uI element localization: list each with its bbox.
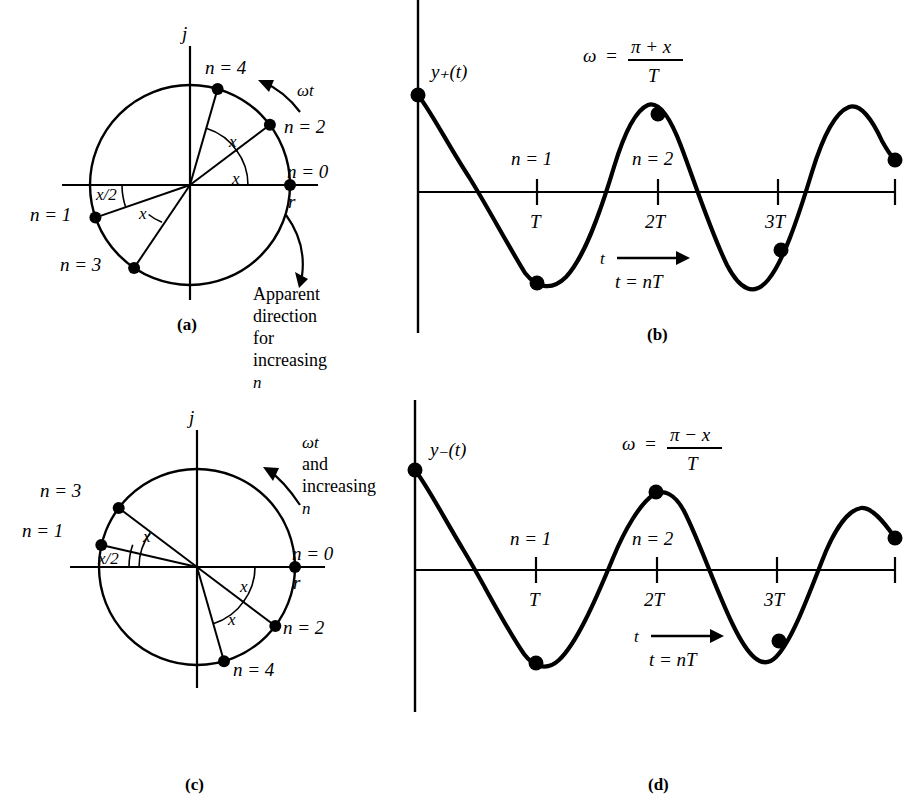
panel-a-angle-label-x-lower: x: [231, 169, 240, 188]
panel-a-axis-label-real: r: [288, 191, 296, 212]
panel-d-time-arrowhead: [710, 629, 724, 643]
panel-c-omega-t-arrowhead: [263, 467, 279, 481]
panel-b-formula-omega: ω: [583, 45, 596, 66]
panel-b-sample-label-n2: n = 2: [632, 148, 674, 169]
panel-c-axis-label-imaginary: j: [186, 407, 194, 428]
panel-a-apparent-direction-arrow: [286, 215, 303, 276]
panel-c-angle-label-x-lower2: x: [227, 610, 236, 629]
panel-b-formula-denominator: T: [648, 65, 660, 86]
figure-canvas: j r n = 4 n = 2 n = 0 n = 1 n = 3 x x x/…: [0, 0, 907, 808]
panel-a-point-n3: [128, 262, 140, 274]
panel-d-sample-n2: [649, 485, 664, 500]
panel-c-angle-label-x-lower: x: [239, 577, 248, 596]
panel-a-axis-label-imaginary: j: [179, 23, 187, 44]
panel-c-point-n4: [218, 655, 230, 667]
panel-d-sample-n4: [888, 531, 903, 546]
panel-b-sample-n1: [530, 276, 545, 291]
panel-a-point-label-n4: n = 4: [205, 57, 247, 78]
panel-c-phasor-n4: [197, 567, 224, 661]
panel-d-sample-label-n2: n = 2: [632, 528, 674, 549]
panel-c-caption: (c): [185, 775, 204, 794]
panel-d-caption: (d): [648, 775, 669, 794]
panel-a-arc-x-lowerleft: [149, 215, 162, 223]
panel-c-point-n2: [269, 620, 281, 632]
panel-a-angle-label-x-upper: x: [228, 132, 237, 151]
panel-d-sampling-label: t = nT: [649, 649, 698, 670]
panel-c-axis-label-real: r: [293, 572, 301, 593]
panel-b-sample-n2: [651, 107, 666, 122]
panel-d-formula-denominator: T: [687, 453, 699, 474]
panel-c-angle-label-x-upper: x: [142, 527, 151, 546]
panel-c-arc-x-half: [129, 545, 133, 567]
panel-a-note-line-5: n: [253, 373, 262, 392]
panel-c-note-line-4: n: [302, 499, 311, 518]
panel-a-note-line-3: for: [253, 328, 274, 348]
panel-a-point-label-n2: n = 2: [284, 116, 326, 137]
panel-d-sample-n1: [529, 656, 544, 671]
panel-a-angle-label-x-half: x/2: [95, 185, 117, 204]
panel-c-point-label-n2: n = 2: [283, 617, 325, 638]
panel-d-tick-label-T: T: [529, 589, 541, 610]
panel-b-formula-equals: =: [605, 45, 618, 66]
panel-c-point-label-n0: n = 0: [292, 543, 334, 564]
panel-a: j r n = 4 n = 2 n = 0 n = 1 n = 3 x x x/…: [30, 23, 329, 392]
panel-a-point-n2: [264, 119, 276, 131]
figure-root: j r n = 4 n = 2 n = 0 n = 1 n = 3 x x x/…: [0, 0, 907, 808]
panel-a-phasor-n4: [190, 89, 218, 185]
panel-c-note-line-2: and: [302, 454, 328, 474]
panel-d-tick-label-3T: 3T: [763, 589, 786, 610]
panel-c-note-line-3: increasing: [302, 476, 376, 496]
panel-b-tick-label-2T: 2T: [645, 211, 667, 232]
panel-a-point-n4: [212, 83, 224, 95]
panel-a-caption: (a): [177, 315, 197, 334]
panel-a-point-n1: [89, 212, 101, 224]
panel-a-phasor-n3: [134, 185, 190, 268]
panel-d-formula-numerator: π − x: [670, 424, 711, 445]
panel-d-sample-n0: [408, 463, 423, 478]
panel-d-tick-label-2T: 2T: [644, 589, 666, 610]
panel-c-point-label-n1: n = 1: [22, 520, 63, 541]
panel-b-sample-n3: [774, 243, 789, 258]
panel-b-time-arrowhead: [676, 251, 690, 265]
panel-d-sample-n3: [772, 634, 787, 649]
panel-c-point-n3: [113, 502, 125, 514]
panel-a-point-label-n0: n = 0: [287, 161, 329, 182]
panel-b: y₊(t) ω = π + x T n = 1 n = 2 T 2T 3T t …: [411, 0, 903, 344]
panel-b-time-arrow-label: t: [600, 249, 606, 268]
panel-d: y₋(t) ω = π − x T n = 1 n = 2 T 2T 3T t …: [408, 400, 903, 794]
panel-b-sample-n4: [888, 153, 903, 168]
panel-d-signal-label: y₋(t): [428, 439, 466, 461]
panel-a-point-label-n1: n = 1: [30, 204, 71, 225]
panel-c-note-line-1: ωt: [302, 433, 320, 452]
panel-b-sample-label-n1: n = 1: [511, 148, 552, 169]
panel-a-point-label-n3: n = 3: [60, 254, 101, 275]
panel-a-omega-t-label: ωt: [297, 81, 315, 100]
panel-b-sampling-label: t = nT: [615, 271, 664, 292]
panel-b-sample-n0: [411, 88, 426, 103]
panel-d-sample-label-n1: n = 1: [510, 528, 551, 549]
panel-d-formula-equals: =: [644, 433, 657, 454]
panel-c-point-label-n4: n = 4: [233, 659, 275, 680]
panel-d-formula-omega: ω: [622, 433, 635, 454]
panel-b-signal-label: y₊(t): [429, 61, 467, 83]
panel-b-tick-label-T: T: [530, 211, 542, 232]
panel-c-phasor-n2: [197, 567, 275, 626]
panel-b-tick-label-3T: 3T: [764, 211, 787, 232]
panel-a-arc-x-half: [122, 185, 126, 207]
panel-b-formula-numerator: π + x: [631, 36, 672, 57]
panel-a-angle-label-x-lowerleft: x: [138, 204, 147, 223]
panel-d-time-arrow-label: t: [634, 627, 640, 646]
panel-c-point-label-n3: n = 3: [40, 480, 81, 501]
panel-b-caption: (b): [647, 325, 668, 344]
panel-c: j r n = 3 n = 1 n = 0 n = 2 n = 4 x x/2 …: [22, 407, 376, 794]
panel-a-note-line-4: increasing: [253, 350, 327, 370]
panel-a-note-line-2: direction: [253, 306, 317, 326]
panel-c-angle-label-x-half: x/2: [97, 549, 119, 568]
panel-a-note-line-1: Apparent: [253, 284, 320, 304]
